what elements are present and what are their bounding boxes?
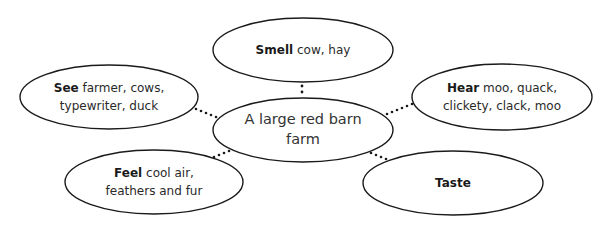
node-see-detail-line2: typewriter, duck (54, 97, 165, 115)
node-see-detail-line1: farmer, cows, (82, 81, 164, 95)
node-taste-label: Taste (435, 176, 471, 190)
node-center-line2: farm (244, 130, 361, 150)
node-see-label: See (54, 81, 79, 95)
node-hear: Hear moo, quack, clickety, clack, moo (412, 64, 592, 130)
connector-smell (301, 85, 304, 94)
node-hear-label: Hear (447, 81, 479, 95)
node-feel-detail-line1: cool air, (146, 166, 194, 180)
node-hear-detail-line2: clickety, clack, moo (443, 97, 561, 115)
node-smell: Smell cow, hay (213, 18, 393, 82)
node-feel-label: Feel (114, 166, 142, 180)
node-taste: Taste (363, 151, 543, 215)
node-feel-detail-line2: feathers and fur (106, 182, 203, 200)
node-smell-label: Smell (256, 43, 294, 57)
node-smell-detail: cow, hay (297, 43, 350, 57)
node-see: See farmer, cows, typewriter, duck (20, 65, 198, 129)
node-hear-detail-line1: moo, quack, (483, 81, 557, 95)
node-center-line1: A large red barn (244, 110, 361, 130)
node-feel: Feel cool air, feathers and fur (65, 150, 243, 214)
